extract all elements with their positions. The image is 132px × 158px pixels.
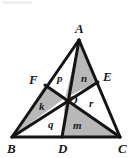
vertex-label-E: E [103,70,112,83]
region-label-p: p [57,73,63,84]
vertex-label-B: B [7,142,16,155]
vertex-label-D: D [58,142,67,155]
region-label-q: q [48,119,54,130]
geometry-figure: A B C D E F O p n k q m r [0,0,132,158]
region-label-k: k [39,101,45,112]
region-label-m: m [73,120,82,131]
vertex-label-C: C [118,142,127,155]
vertex-label-A: A [75,22,84,35]
vertex-label-F: F [29,73,38,86]
region-label-r: r [89,98,93,109]
region-label-n: n [81,73,87,84]
triangle-diagram-canvas [0,0,132,158]
vertex-label-O: O [69,94,78,106]
